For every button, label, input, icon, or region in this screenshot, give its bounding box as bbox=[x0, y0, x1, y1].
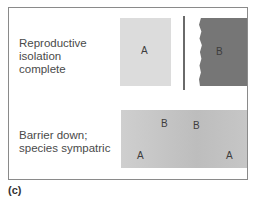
species-b-label: B bbox=[216, 46, 223, 57]
caption-sympatric: Barrier down; species sympatric bbox=[19, 129, 110, 155]
species-a-label: A bbox=[141, 45, 148, 56]
species-b-population bbox=[199, 18, 247, 86]
species-b-label: B bbox=[193, 120, 200, 131]
species-b-label: B bbox=[161, 118, 168, 129]
geographic-barrier bbox=[183, 16, 185, 90]
figure-panel-label: (c) bbox=[8, 184, 21, 196]
species-a-label: A bbox=[137, 150, 144, 161]
species-a-label: A bbox=[226, 150, 233, 161]
caption-reproductive-isolation: Reproductive isolation complete bbox=[19, 37, 87, 76]
